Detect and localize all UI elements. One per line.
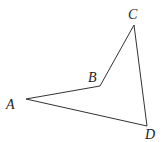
vertex-label-d: D	[144, 127, 155, 142]
quadrilateral-diagram: A B C D	[0, 0, 164, 142]
quadrilateral-abcd	[26, 25, 147, 126]
vertex-label-b: B	[88, 70, 97, 85]
vertex-label-c: C	[128, 7, 138, 22]
vertex-label-a: A	[5, 97, 15, 112]
